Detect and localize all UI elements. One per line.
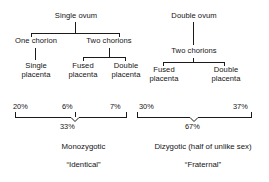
left-placenta-single-line2: placenta [21,70,50,79]
right-placenta-fused-line2: placenta [149,74,178,83]
pct-left-double: 7% [110,103,121,111]
left-bracket-center-notch [71,118,79,122]
pct-left-single: 20% [13,103,28,111]
caption-dizygotic: Dizygotic (half of unlike sex) [139,142,267,151]
left-placenta-single: Single placenta [12,62,60,79]
caption-monozygotic: Monozygotic [31,142,136,151]
pct-left-total: 33% [60,123,75,131]
twinning-diagram: Single ovum One chorion Two chorions Sin… [0,0,269,182]
left-placenta-fused-line2: placenta [68,70,97,79]
left-level2-one-chorion: One chorion [6,37,66,46]
caption-fraternal: “Fraternal” [139,160,267,169]
right-placenta-double-line2: placenta [211,74,240,83]
pct-right-fused: 30% [139,103,154,111]
pct-right-total: 67% [185,123,200,131]
left-level2-two-chorions: Two chorions [78,37,140,46]
caption-identical: “Identical” [31,160,136,169]
right-placenta-fused: Fused placenta [140,66,188,83]
left-placenta-double-line2: placenta [111,70,140,79]
right-root-label: Double ovum [162,12,226,21]
left-root-label: Single ovum [45,12,107,21]
right-bracket-center-notch [190,118,198,122]
left-placenta-fused: Fused placenta [61,62,105,79]
right-level2-two-chorions: Two chorions [163,47,225,56]
pct-right-double: 37% [233,103,248,111]
connector-lines [0,0,269,182]
pct-left-fused: 6% [62,103,73,111]
right-placenta-double: Double placenta [202,66,250,83]
